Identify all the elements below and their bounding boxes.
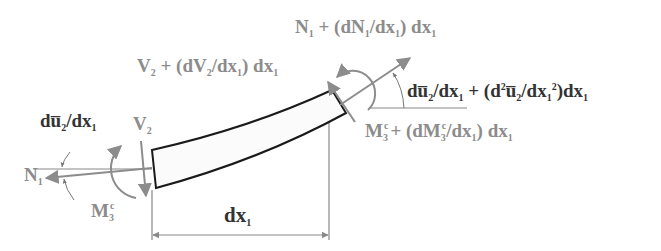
label-slope-plus-increment: du̅2/dx1 + (d2u̅2/dx12)dx1 — [407, 80, 588, 103]
beam-free-body-diagram: N1 + (dN1/dx1) dx1 V2 + (dV2/dx1) dx1 du… — [0, 0, 661, 251]
label-n1-plus-increment: N1 + (dN1/dx1) dx1 — [295, 16, 436, 39]
label-m3-left: M3c — [91, 200, 115, 223]
label-m3-plus-increment: M3c+ (dM3c/dx1) dx1 — [365, 120, 513, 143]
beam-element — [152, 90, 346, 188]
slope-left-angle-arc-top — [62, 152, 70, 167]
label-v2-left: V2 — [133, 113, 152, 136]
label-v2-plus-increment: V2 + (dV2/dx1) dx1 — [137, 55, 278, 78]
slope-right-angle-arc — [393, 73, 404, 108]
label-slope-left: du̅2/dx1 — [40, 110, 97, 133]
slope-left-angle-arc-bottom — [64, 179, 74, 200]
label-n1-left: N1 — [24, 164, 43, 187]
label-dimension-dx1: dx1 — [224, 203, 251, 228]
